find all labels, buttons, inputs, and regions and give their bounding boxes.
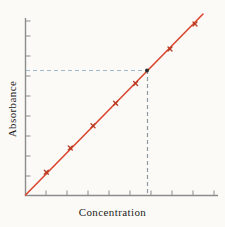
unknown-sample-point: [145, 69, 149, 73]
y-axis-label: Absorbance: [6, 59, 18, 159]
x-axis-label: Concentration: [0, 206, 225, 218]
absorbance-concentration-chart: Concentration Absorbance: [0, 0, 225, 227]
chart-canvas: [0, 0, 225, 227]
chart-background: [0, 0, 225, 227]
